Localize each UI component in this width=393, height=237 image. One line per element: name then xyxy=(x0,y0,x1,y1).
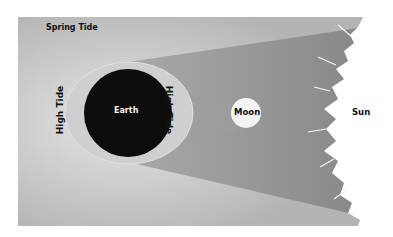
high-tide-label-left: High Tide xyxy=(55,86,65,134)
moon-label: Moon xyxy=(234,107,260,117)
diagram-graphic xyxy=(18,17,379,226)
earth-label: Earth xyxy=(114,106,138,115)
spring-tide-diagram: Spring Tide Earth Moon Sun High Tide Hig… xyxy=(18,17,379,226)
diagram-title: Spring Tide xyxy=(46,23,98,32)
high-tide-label-right: High Tide xyxy=(164,86,174,134)
sun-label: Sun xyxy=(352,107,370,117)
